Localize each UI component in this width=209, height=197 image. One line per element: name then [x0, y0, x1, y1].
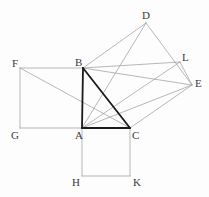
vertex-label-f: F — [12, 58, 18, 69]
vertex-label-h: H — [72, 177, 80, 188]
square-BDEC-side-EC — [130, 85, 192, 128]
square-BLEC-side-BL — [83, 62, 180, 68]
construction-line-AD — [82, 23, 146, 128]
figure-canvas — [0, 0, 209, 197]
square-BDEC-side-BD — [83, 23, 146, 68]
construction-line-AL — [82, 62, 180, 128]
square-BLEC-side-LE — [180, 62, 192, 85]
thick-line-layer — [82, 68, 130, 128]
vertex-label-b: B — [75, 57, 82, 68]
geometry-figure: DFBLEGACHK — [0, 0, 209, 197]
vertex-label-k: K — [133, 177, 141, 188]
vertex-label-a: A — [75, 130, 83, 141]
vertex-label-c: C — [132, 130, 139, 141]
thin-line-layer — [20, 23, 192, 176]
construction-line-BE — [83, 68, 192, 85]
triangle-side-AB — [82, 68, 83, 128]
triangle-hypotenuse-BC — [83, 68, 130, 128]
construction-line-FC — [20, 68, 130, 128]
vertex-label-d: D — [142, 10, 150, 21]
vertex-label-e: E — [195, 78, 202, 89]
vertex-label-l: L — [182, 52, 189, 63]
vertex-label-g: G — [11, 130, 19, 141]
construction-line-AE — [82, 85, 192, 128]
